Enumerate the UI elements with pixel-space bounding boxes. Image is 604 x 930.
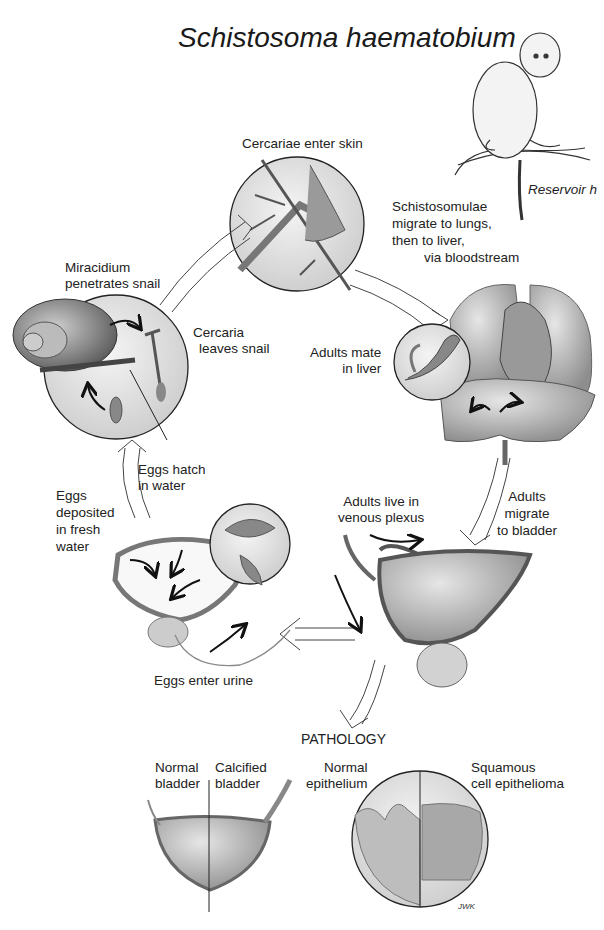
label-cercariae-enter-skin: Cercariae enter skin (242, 136, 363, 152)
label-squamous-cell-epithelioma: Squamous cell epithelioma (471, 760, 564, 792)
epithelium-comparison-inset (352, 771, 488, 907)
snail-inset (13, 295, 188, 440)
label-cercaria-leaves: Cercaria leaves snail (193, 325, 270, 357)
pathology-heading: PATHOLOGY (301, 731, 386, 747)
label-miracidium: Miracidium penetrates snail (65, 260, 160, 292)
label-adults-mate: Adults mate in liver (310, 345, 381, 377)
bladder-eggs-illustration (115, 504, 290, 666)
label-schistosomulae: Schistosomulae migrate to lungs, then to… (392, 198, 519, 266)
label-normal-bladder: Normal bladder (155, 760, 200, 792)
cercariae-skin-inset (230, 157, 364, 291)
reservoir-host-label: Reservoir h (528, 182, 597, 197)
label-normal-epithelium: Normal epithelium (306, 760, 368, 792)
label-eggs-deposited: Eggs deposited in fresh water (56, 487, 115, 555)
pathology-bladder-comparison (148, 780, 290, 912)
label-calcified-bladder: Calcified bladder (215, 760, 267, 792)
lungs-liver-illustration (394, 284, 595, 465)
label-adults-live: Adults live in venous plexus (338, 494, 424, 526)
artist-signature: JWK (458, 902, 475, 911)
label-eggs-enter-urine: Eggs enter urine (154, 673, 253, 689)
label-adults-migrate: Adults migrate to bladder (497, 488, 557, 539)
venous-plexus-bladder-illustration (335, 535, 530, 687)
label-eggs-hatch: Eggs hatch in water (138, 462, 206, 494)
